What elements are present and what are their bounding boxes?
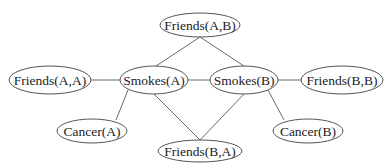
edge-smokes-b-cancer-b: [268, 90, 284, 120]
node-label: Friends(B,B): [307, 73, 378, 88]
node-cancer-a: Cancer(A): [57, 119, 127, 143]
node-label: Cancer(B): [280, 124, 336, 139]
node-label: Cancer(A): [64, 124, 121, 139]
edge-smokes-b-friends-ba: [200, 93, 245, 140]
node-smokes-b: Smokes(B): [210, 66, 278, 94]
markov-network-diagram: Friends(A,B) Friends(A,A) Smokes(A) Smok…: [0, 0, 391, 164]
node-label: Smokes(B): [214, 73, 275, 88]
node-label: Friends(B,A): [164, 144, 236, 159]
edge-friends-ab-smokes-b: [200, 37, 244, 66]
node-cancer-b: Cancer(B): [273, 119, 343, 143]
node-smokes-a: Smokes(A): [120, 66, 188, 94]
node-label: Smokes(A): [123, 73, 185, 88]
edge-smokes-a-friends-ba: [153, 93, 200, 140]
edge-smokes-a-cancer-a: [116, 90, 128, 120]
node-label: Friends(A,A): [14, 73, 86, 88]
node-label: Friends(A,B): [164, 18, 236, 33]
node-friends-aa: Friends(A,A): [9, 66, 91, 94]
node-friends-ba: Friends(B,A): [158, 140, 242, 162]
node-friends-bb: Friends(B,B): [301, 66, 383, 94]
diagram-svg: Friends(A,B) Friends(A,A) Smokes(A) Smok…: [0, 0, 391, 164]
node-friends-ab: Friends(A,B): [160, 13, 240, 37]
edge-friends-ab-smokes-a: [156, 37, 200, 66]
